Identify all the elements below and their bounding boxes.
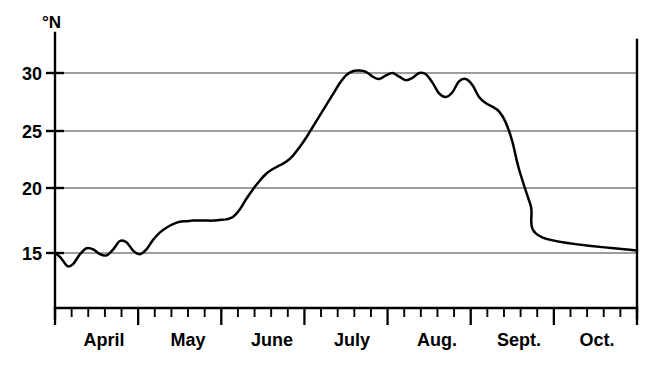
y-tick-label-30: 30 xyxy=(22,64,42,84)
x-tick-label-july: July xyxy=(334,330,370,350)
data-series-line xyxy=(55,71,637,267)
x-tick-label-june: June xyxy=(251,330,293,350)
y-tick-label-25: 25 xyxy=(22,122,42,142)
line-chart: 30 25 20 15 °N April May June July Aug. … xyxy=(0,0,654,368)
x-tick-labels: April May June July Aug. Sept. Oct. xyxy=(83,330,614,350)
x-tick-label-sept: Sept. xyxy=(497,330,541,350)
y-tick-label-15: 15 xyxy=(22,244,42,264)
y-tick-labels: 30 25 20 15 xyxy=(22,64,42,264)
x-tick-label-april: April xyxy=(83,330,124,350)
y-tick-label-20: 20 xyxy=(22,179,42,199)
y-axis-title: °N xyxy=(42,13,61,32)
x-tick-label-oct: Oct. xyxy=(579,330,614,350)
chart-container: 30 25 20 15 °N April May June July Aug. … xyxy=(0,0,654,368)
gridlines xyxy=(55,73,637,253)
x-axis-ticks xyxy=(55,308,637,325)
x-tick-label-may: May xyxy=(170,330,205,350)
x-tick-label-aug: Aug. xyxy=(417,330,457,350)
